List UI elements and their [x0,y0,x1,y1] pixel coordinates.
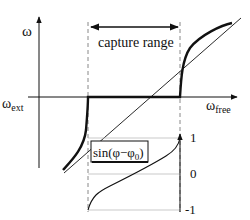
sine-tick-0: 0 [190,166,197,181]
sine-tick-minus1: -1 [185,202,196,217]
omega-axis-label: ω [22,23,32,39]
omega-free-label: ωfree [206,98,231,115]
capture-range-label: capture range [98,35,174,50]
sine-tick-1: 1 [190,130,197,145]
capture-range-diagram: ω ωfree ωext capture range 1 0 -1 sin(φ−… [0,0,250,220]
omega-ext-label: ωext [2,96,24,113]
